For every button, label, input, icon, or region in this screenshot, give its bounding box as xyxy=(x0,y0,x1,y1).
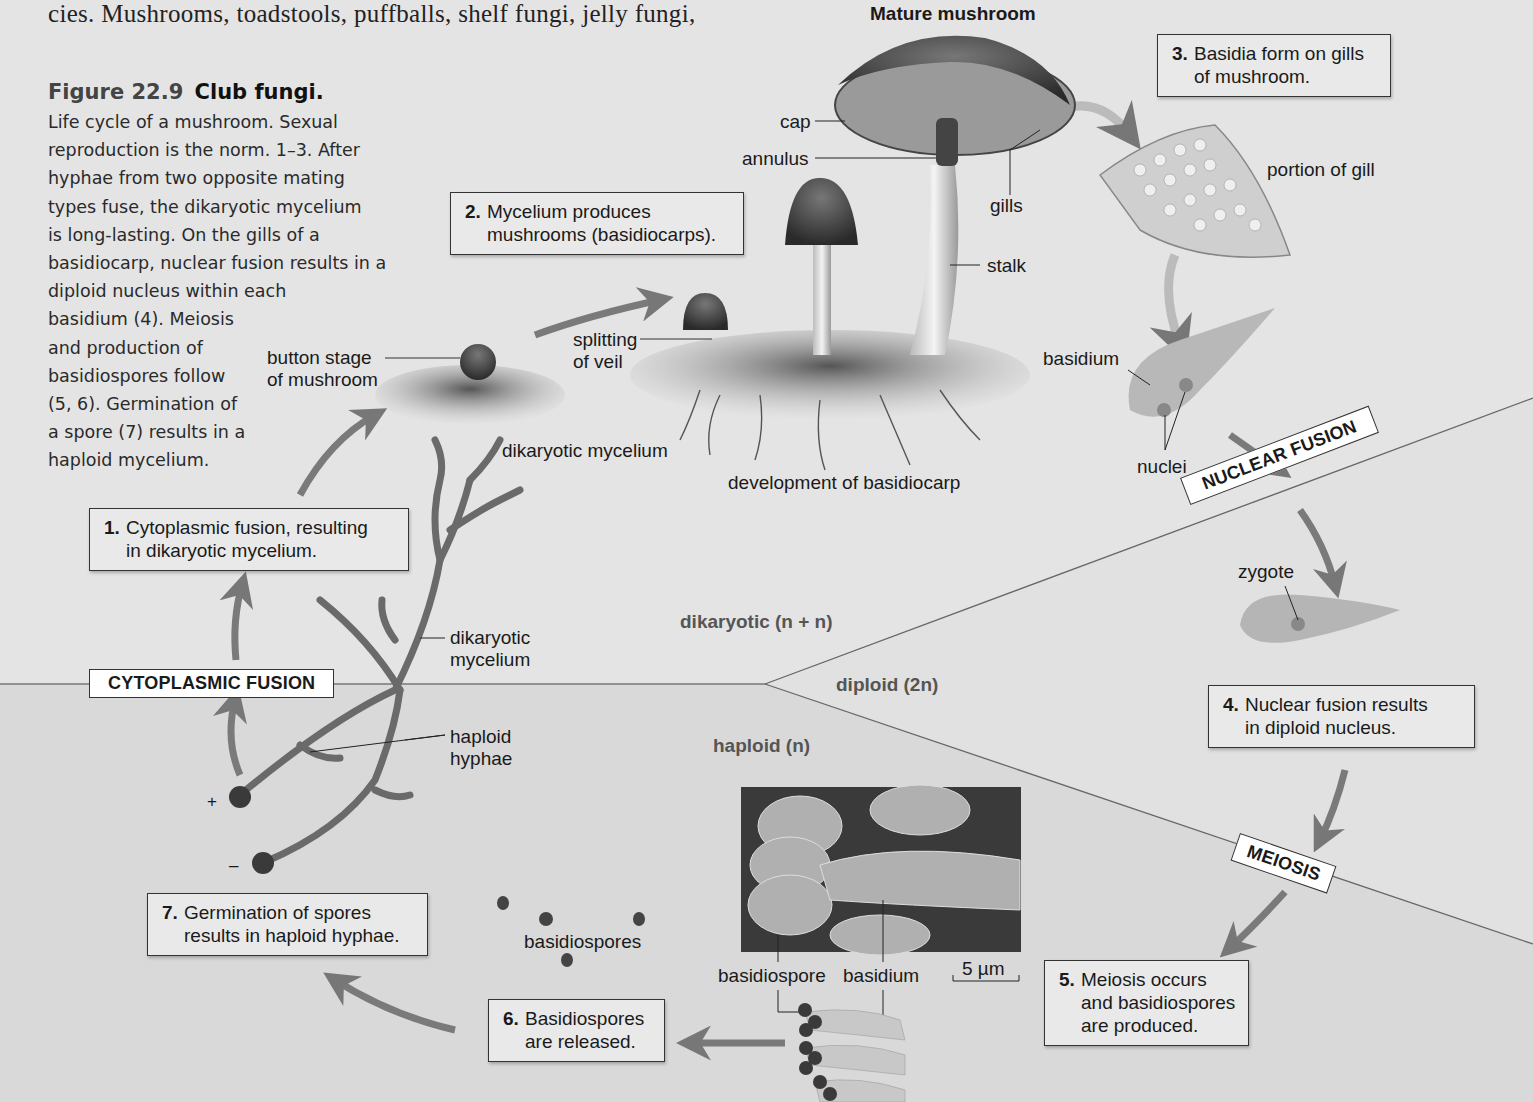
caption-line: (5, 6). Germination of xyxy=(48,390,408,418)
label-annulus: annulus xyxy=(742,148,809,170)
step-1-box: 1.Cytoplasmic fusion, resulting in dikar… xyxy=(89,508,409,571)
figure-caption: Life cycle of a mushroom. Sexual reprodu… xyxy=(48,108,408,475)
figure-name: Club fungi. xyxy=(195,80,324,104)
step-7-box: 7.Germination of spores results in haplo… xyxy=(147,893,428,956)
label-basidiospores: basidiospores xyxy=(524,931,641,953)
caption-line: haploid mycelium. xyxy=(48,446,408,474)
label-portion-of-gill: portion of gill xyxy=(1267,159,1375,181)
step-2-box: 2.Mycelium produces mushrooms (basidioca… xyxy=(450,192,744,255)
mature-mushroom-title: Mature mushroom xyxy=(870,3,1036,25)
step-3-box: 3.Basidia form on gills of mushroom. xyxy=(1157,34,1391,97)
label-nuclei: nuclei xyxy=(1137,456,1187,478)
body-text-fragment: cies. Mushrooms, toadstools, puffballs, … xyxy=(48,0,695,28)
step-5-box: 5.Meiosis occurs and basidiospores are p… xyxy=(1044,960,1249,1046)
caption-line: diploid nucleus within each xyxy=(48,277,408,305)
label-cap: cap xyxy=(780,111,811,133)
label-development-of-basidiocarp: development of basidiocarp xyxy=(728,472,960,494)
label-gills: gills xyxy=(990,195,1023,217)
label-stalk: stalk xyxy=(987,255,1026,277)
scale-bar-label: 5 µm xyxy=(962,958,1005,980)
caption-line: is long-lasting. On the gills of a xyxy=(48,221,408,249)
label-basidium: basidium xyxy=(1043,348,1119,370)
region-label-diploid: diploid (2n) xyxy=(836,674,938,696)
label-sem-basidium: basidium xyxy=(843,965,919,987)
region-label-dikaryotic: dikaryotic (n + n) xyxy=(680,611,833,633)
label-zygote: zygote xyxy=(1238,561,1294,583)
caption-line: reproduction is the norm. 1–3. After xyxy=(48,136,408,164)
label-dikaryotic-mycelium-ground: dikaryotic mycelium xyxy=(502,440,668,462)
step-4-box: 4.Nuclear fusion results in diploid nucl… xyxy=(1208,685,1475,748)
label-sem-basidiospore: basidiospore xyxy=(718,965,826,987)
step-6-box: 6.Basidiospores are released. xyxy=(488,999,665,1062)
caption-line: Life cycle of a mushroom. Sexual xyxy=(48,108,408,136)
label-plus-mating-type: + xyxy=(207,791,217,813)
caption-line: a spore (7) results in a xyxy=(48,418,408,446)
label-haploid-hyphae: haploid hyphae xyxy=(450,726,512,770)
label-splitting-of-veil: splitting of veil xyxy=(573,329,637,373)
label-minus-mating-type: – xyxy=(229,855,238,877)
region-label-haploid: haploid (n) xyxy=(713,735,810,757)
phase-cytoplasmic-fusion: CYTOPLASMIC FUSION xyxy=(89,669,334,698)
label-dikaryotic-mycelium: dikaryotic mycelium xyxy=(450,627,530,671)
label-button-stage: button stage of mushroom xyxy=(267,347,378,391)
caption-line: types fuse, the dikaryotic mycelium xyxy=(48,193,408,221)
figure-number: Figure 22.9 xyxy=(48,80,183,104)
figure-title: Figure 22.9 Club fungi. xyxy=(48,80,324,104)
caption-line: basidium (4). Meiosis xyxy=(48,305,408,333)
caption-line: hyphae from two opposite mating xyxy=(48,164,408,192)
caption-line: basidiocarp, nuclear fusion results in a xyxy=(48,249,408,277)
